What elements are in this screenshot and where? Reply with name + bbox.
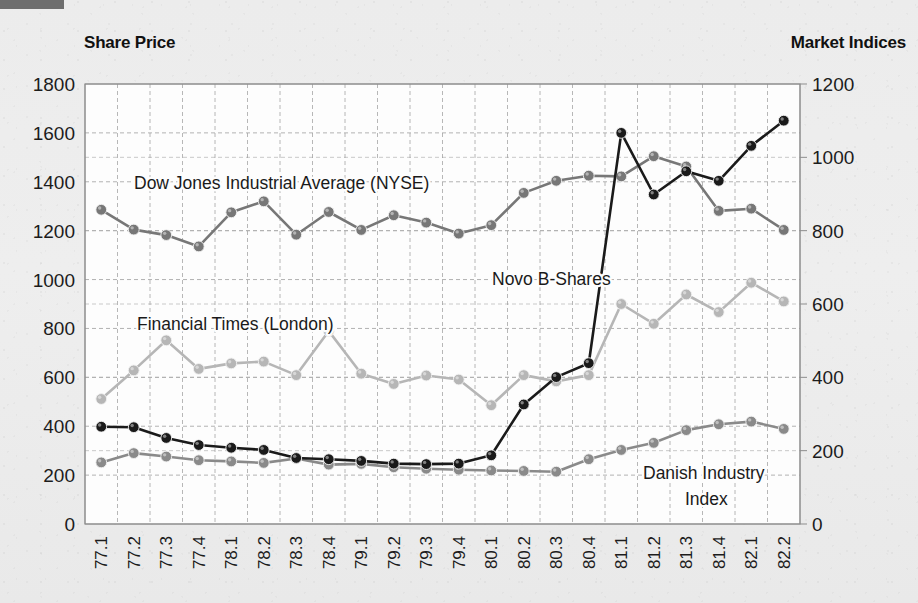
data-point (778, 225, 789, 236)
data-point-highlight (520, 372, 523, 375)
data-point (746, 140, 757, 151)
data-point-highlight (683, 168, 686, 171)
data-point (388, 458, 399, 469)
x-tick-label-78.2: 78.2 (255, 536, 274, 569)
data-point (128, 422, 139, 433)
data-point-highlight (455, 230, 458, 233)
x-tick-label-78.1: 78.1 (222, 536, 241, 569)
left-tick-label-1600: 1600 (33, 123, 75, 144)
data-point-highlight (748, 142, 751, 145)
data-point (258, 457, 269, 468)
right-tick-label-1200: 1200 (812, 74, 854, 95)
data-point (291, 453, 302, 464)
data-point (681, 425, 692, 436)
data-point (518, 188, 529, 199)
data-point (713, 307, 724, 318)
data-point (193, 241, 204, 252)
left-tick-label-400: 400 (43, 416, 75, 437)
data-point-highlight (163, 435, 166, 438)
data-point-highlight (98, 396, 101, 399)
data-point-highlight (585, 372, 588, 375)
data-point-highlight (650, 153, 653, 156)
data-point-highlight (228, 360, 231, 363)
data-point (161, 433, 172, 444)
data-point-highlight (618, 301, 621, 304)
data-point (648, 151, 659, 162)
x-tick-label-82.2: 82.2 (775, 536, 794, 569)
data-point (713, 175, 724, 186)
data-point-highlight (293, 455, 296, 458)
data-point (681, 166, 692, 177)
data-point-highlight (163, 232, 166, 235)
data-point-highlight (553, 468, 556, 471)
data-point (713, 205, 724, 216)
data-point (778, 296, 789, 307)
data-point-highlight (488, 402, 491, 405)
data-point-highlight (553, 374, 556, 377)
data-point (648, 437, 659, 448)
right-tick-label-800: 800 (812, 221, 844, 242)
data-point-highlight (780, 227, 783, 230)
data-point (746, 277, 757, 288)
x-tick-label-80.2: 80.2 (515, 536, 534, 569)
data-point-highlight (585, 172, 588, 175)
data-point (486, 465, 497, 476)
annotation-label-danish-industry-index-1: Index (685, 489, 728, 509)
data-point-highlight (195, 243, 198, 246)
data-point (778, 424, 789, 435)
data-point-highlight (390, 212, 393, 215)
data-point (323, 454, 334, 465)
data-point-highlight (390, 381, 393, 384)
data-point (193, 440, 204, 451)
right-tick-label-0: 0 (812, 514, 823, 535)
data-point (551, 372, 562, 383)
data-point-highlight (455, 460, 458, 463)
data-point-highlight (650, 439, 653, 442)
data-point (746, 416, 757, 427)
data-point-highlight (163, 337, 166, 340)
data-point-highlight (228, 209, 231, 212)
right-tick-label-600: 600 (812, 294, 844, 315)
data-point (161, 451, 172, 462)
x-tick-label-78.4: 78.4 (320, 536, 339, 569)
left-tick-label-1800: 1800 (33, 74, 75, 95)
data-point-highlight (325, 456, 328, 459)
data-point (226, 207, 237, 218)
data-point (356, 456, 367, 467)
x-tick-label-77.1: 77.1 (92, 536, 111, 569)
data-point-highlight (780, 426, 783, 429)
data-point (291, 229, 302, 240)
data-point-highlight (423, 372, 426, 375)
right-tick-label-1000: 1000 (812, 147, 854, 168)
data-point-highlight (260, 447, 263, 450)
data-point-highlight (423, 461, 426, 464)
data-point-highlight (780, 117, 783, 120)
data-point (583, 454, 594, 465)
data-point-highlight (455, 376, 458, 379)
x-tick-label-77.4: 77.4 (190, 536, 209, 569)
data-point (258, 196, 269, 207)
data-point (453, 228, 464, 239)
data-point-highlight (98, 459, 101, 462)
x-tick-label-80.4: 80.4 (580, 536, 599, 569)
data-point (128, 365, 139, 376)
data-point (161, 335, 172, 346)
data-point-highlight (618, 447, 621, 450)
x-tick-label-80.3: 80.3 (547, 536, 566, 569)
data-point (616, 299, 627, 310)
data-point (226, 442, 237, 453)
data-point (681, 289, 692, 300)
data-point-highlight (195, 457, 198, 460)
data-point (616, 127, 627, 138)
data-point (96, 394, 107, 405)
data-point (583, 170, 594, 181)
data-point-highlight (748, 418, 751, 421)
data-point (778, 115, 789, 126)
right-tick-label-400: 400 (812, 367, 844, 388)
left-tick-label-0: 0 (64, 514, 75, 535)
x-tick-label-79.4: 79.4 (450, 536, 469, 569)
data-point-highlight (195, 442, 198, 445)
data-point (453, 374, 464, 385)
data-point (96, 204, 107, 215)
data-point-highlight (358, 227, 361, 230)
